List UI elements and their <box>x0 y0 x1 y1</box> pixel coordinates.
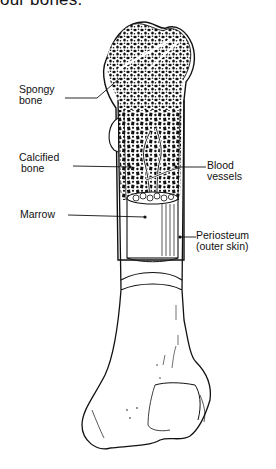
label-blood-vessels: Blood vessels <box>207 160 242 182</box>
label-calcified-bone: Calcified bone <box>19 152 59 174</box>
label-spongy-bone: Spongy bone <box>19 84 55 106</box>
bone-shaft-lower-outline <box>82 290 210 449</box>
label-marrow: Marrow <box>20 209 55 220</box>
label-periosteum: Periosteum (outer skin) <box>196 230 249 252</box>
